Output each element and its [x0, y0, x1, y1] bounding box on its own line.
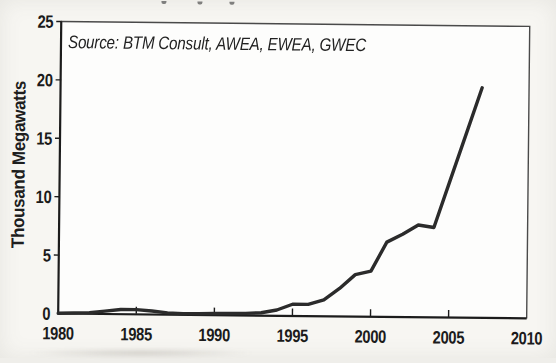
- y-tick-label: 5: [43, 245, 51, 265]
- x-tick-label: 1995: [276, 325, 308, 345]
- x-tick-label: 2005: [433, 327, 465, 347]
- scan-shadow-artifact: [28, 349, 253, 357]
- cropped-title-remnant: [197, 1, 202, 4]
- wind-capacity-line-chart: 19801985199019952000200520100510152025: [0, 0, 556, 363]
- cropped-title-remnant: [229, 2, 234, 5]
- y-tick-label: 20: [37, 70, 53, 90]
- source-note: Source: BTM Consult, AWEA, EWEA, GWEC: [68, 33, 366, 54]
- x-tick-label: 2010: [511, 328, 543, 348]
- x-tick-label: 1980: [42, 323, 74, 343]
- plot-area: [58, 22, 530, 319]
- x-tick-label: 1990: [198, 325, 230, 345]
- chart-tilt-wrapper: 19801985199019952000200520100510152025 S…: [0, 0, 556, 363]
- x-tick-label: 2000: [354, 326, 386, 346]
- y-tick-label: 25: [37, 11, 53, 31]
- x-tick-label: 1985: [120, 324, 152, 344]
- y-tick-label: 15: [36, 128, 52, 148]
- y-tick-label: 0: [42, 303, 50, 323]
- y-axis-title: Thousand Megawatts: [9, 81, 29, 248]
- y-tick-label: 10: [36, 187, 52, 207]
- cropped-title-remnant: [161, 1, 166, 4]
